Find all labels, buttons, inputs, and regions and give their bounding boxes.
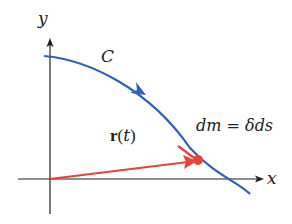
position-vector [50, 162, 188, 179]
mass-point [193, 155, 203, 165]
curve-label: C [101, 46, 114, 66]
curve-direction-arrow-icon [130, 82, 146, 95]
y-axis-label: y [37, 8, 48, 28]
y-axis [47, 38, 54, 214]
x-axis-label: x [267, 168, 277, 188]
position-vector-label: r(t) [110, 125, 136, 145]
mass-element-label: dm = δds [196, 116, 273, 135]
diagram-canvas: y x C r(t) dm = δds [0, 0, 292, 224]
